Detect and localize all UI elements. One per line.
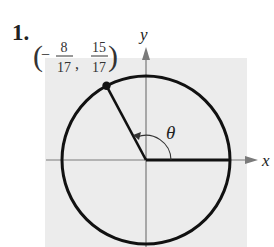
y-axis-label: y	[138, 25, 148, 44]
unit-circle-diagram: θ x y ( − 8 17 , 15 17 )	[0, 0, 274, 247]
x-numerator: 8	[61, 40, 68, 55]
comma: ,	[75, 55, 79, 72]
y-axis-arrow-icon	[142, 47, 150, 60]
x-axis-label: x	[261, 151, 270, 170]
x-axis-arrow-icon	[245, 156, 258, 164]
point-marker	[102, 82, 110, 90]
y-denominator: 17	[92, 60, 106, 75]
close-paren: )	[108, 39, 118, 73]
x-denominator: 17	[57, 60, 71, 75]
y-numerator: 15	[92, 40, 106, 55]
angle-label: θ	[166, 122, 175, 143]
minus-sign: −	[41, 46, 50, 63]
